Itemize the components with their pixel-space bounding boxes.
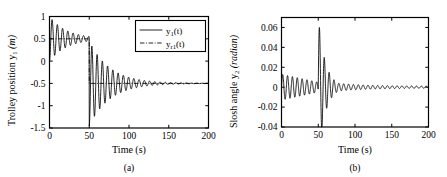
panel-a-y-axis-label: Trolley position y1 (m) bbox=[6, 34, 18, 126]
panel-b-y-axis-label-main: Slosh angle y bbox=[228, 74, 239, 128]
x-tick-label: 0 bbox=[279, 130, 284, 140]
y-tick-label: 0.5 bbox=[34, 34, 46, 44]
panel-b-y-axis-label-unit: (radian) bbox=[228, 34, 240, 68]
x-tick-label: 100 bbox=[122, 131, 137, 141]
panel-a-ytick-labels: 10.50-0.5-1-1.5 bbox=[30, 12, 45, 133]
y-tick-label: 0.06 bbox=[261, 23, 278, 33]
panel-b-ytick-labels: 0.060.040.020-0.02-0.04 bbox=[258, 23, 278, 133]
y-tick-label: 0.02 bbox=[261, 63, 278, 73]
panel-a-x-axis-label: Time (s) bbox=[112, 144, 146, 156]
panel-b-slosh-angle: Slosh angle y2 (radian) 0.060.040.020-0.… bbox=[224, 0, 447, 177]
legend-label-y1: y1(t) bbox=[166, 26, 182, 37]
legend-label-yr1: yr1(t) bbox=[166, 39, 185, 50]
x-tick-label: 200 bbox=[421, 130, 436, 140]
panel-a-caption: (a) bbox=[124, 163, 135, 174]
figure-two-panel-plot: Trolley position y1 (m) 10.50-0.5-1-1.5 … bbox=[0, 0, 447, 177]
x-tick-label: 150 bbox=[385, 130, 400, 140]
x-tick-label: 150 bbox=[162, 131, 177, 141]
panel-a-y-axis-label-main: Trolley position y bbox=[6, 55, 17, 126]
y-tick-label: -0.04 bbox=[258, 122, 278, 132]
panel-a-svg: Trolley position y1 (m) 10.50-0.5-1-1.5 … bbox=[0, 0, 224, 177]
x-tick-label: 100 bbox=[348, 130, 363, 140]
y-tick-label: -1 bbox=[38, 101, 46, 111]
y-tick-label: -0.02 bbox=[258, 102, 278, 112]
x-tick-label: 50 bbox=[85, 131, 95, 141]
x-tick-label: 0 bbox=[47, 131, 52, 141]
panel-b-svg: Slosh angle y2 (radian) 0.060.040.020-0.… bbox=[224, 0, 447, 177]
x-tick-label: 50 bbox=[314, 130, 324, 140]
panel-b-caption: (b) bbox=[349, 163, 360, 174]
y-tick-label: 0 bbox=[41, 57, 46, 67]
y-tick-label: 0 bbox=[273, 83, 278, 93]
panel-a-xtick-labels: 050100150200 bbox=[47, 131, 216, 141]
y-tick-label: -0.5 bbox=[30, 79, 45, 89]
panel-b-plot-frame bbox=[282, 18, 429, 128]
panel-b-x-axis-label: Time (s) bbox=[338, 144, 372, 156]
y-tick-label: 1 bbox=[41, 12, 46, 22]
x-tick-label: 200 bbox=[201, 131, 216, 141]
panel-b-xtick-labels: 050100150200 bbox=[279, 130, 436, 140]
panel-a-legend: y1(t) yr1(t) bbox=[136, 21, 206, 52]
panel-a-y-axis-label-unit: (m) bbox=[6, 34, 18, 49]
y-tick-label: -1.5 bbox=[30, 123, 45, 133]
y-tick-label: 0.04 bbox=[261, 43, 278, 53]
panel-a-trolley-position: Trolley position y1 (m) 10.50-0.5-1-1.5 … bbox=[0, 0, 224, 177]
panel-b-y-axis-label: Slosh angle y2 (radian) bbox=[228, 34, 240, 128]
